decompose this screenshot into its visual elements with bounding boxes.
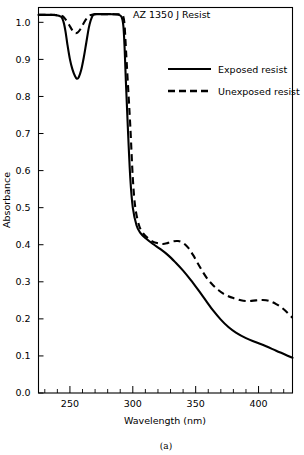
y-tick-label: 0.6: [15, 165, 30, 176]
x-axis: 250300350400: [45, 386, 284, 409]
y-tick-label: 0.1: [15, 350, 30, 361]
y-axis-title: Absorbance: [1, 172, 12, 228]
legend-label-unexposed: Unexposed resist: [218, 86, 300, 97]
y-tick-label: 0.3: [15, 276, 30, 287]
y-tick-label: 0.5: [15, 202, 30, 213]
y-axis: 0.00.10.20.30.40.50.60.70.80.91.0: [15, 17, 43, 399]
x-tick-label: 400: [249, 398, 267, 409]
x-axis-title: Wavelength (nm): [124, 415, 206, 426]
legend: Exposed resist Unexposed resist: [168, 64, 300, 97]
figure-container: 0.00.10.20.30.40.50.60.70.80.91.0 250300…: [0, 0, 304, 455]
y-tick-label: 0.9: [15, 54, 30, 65]
y-tick-label: 0.7: [15, 128, 30, 139]
y-tick-label: 0.8: [15, 91, 30, 102]
x-tick-label: 300: [124, 398, 142, 409]
x-tick-label: 250: [61, 398, 79, 409]
y-tick-label: 0.2: [15, 313, 30, 324]
y-tick-label: 0.0: [15, 387, 30, 398]
y-tick-label: 1.0: [15, 17, 30, 28]
y-tick-label: 0.4: [15, 239, 30, 250]
legend-label-exposed: Exposed resist: [218, 64, 287, 75]
x-tick-label: 350: [187, 398, 205, 409]
series-unexposed-resist-line: [39, 14, 293, 318]
plot-title: AZ 1350 J Resist: [133, 9, 211, 20]
absorbance-spectrum-chart: 0.00.10.20.30.40.50.60.70.80.91.0 250300…: [0, 0, 304, 455]
panel-label: (a): [160, 441, 172, 451]
